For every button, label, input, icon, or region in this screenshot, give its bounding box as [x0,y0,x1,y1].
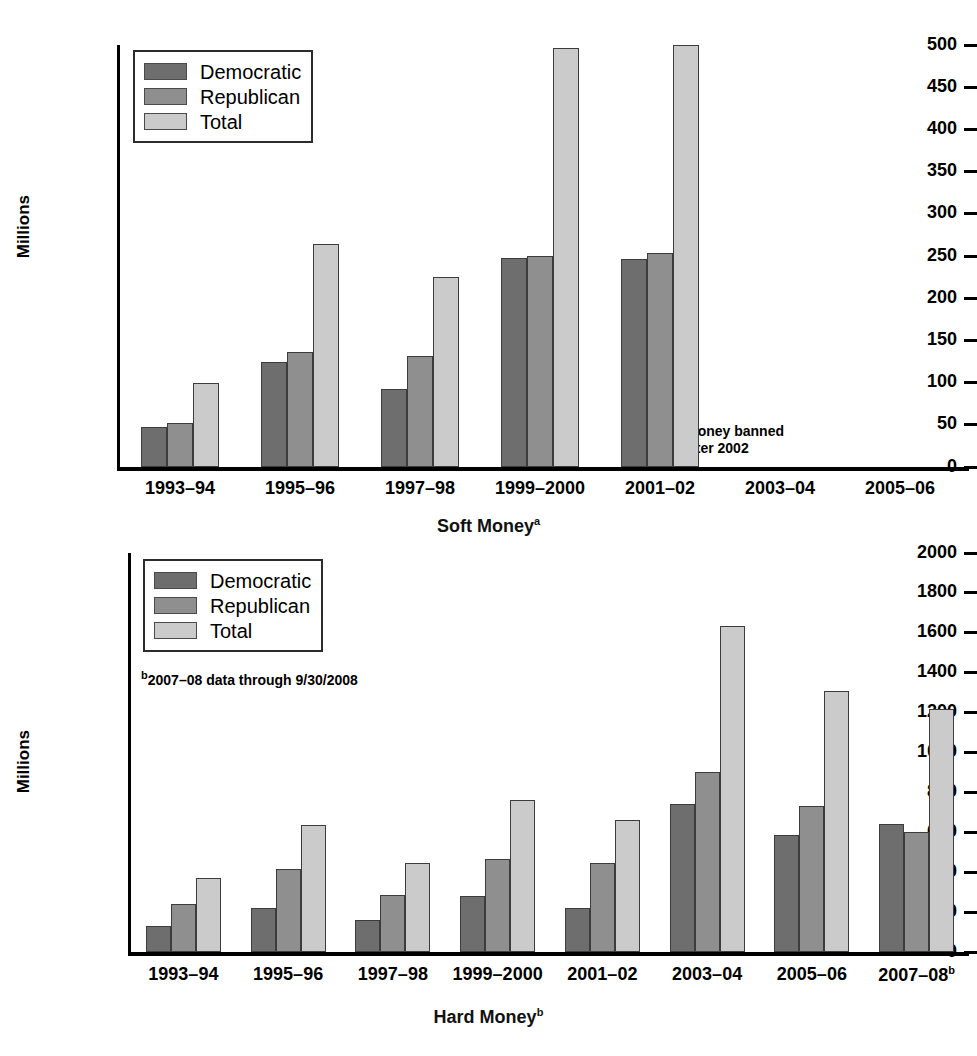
x-category-2005–06: 2005–06 [840,478,960,499]
bar-democratic-2005–06 [774,835,799,952]
bar-democratic-1993–94 [141,427,167,468]
bar-democratic-2001–02 [621,259,647,467]
legend-item-republican: Republican [144,84,299,109]
bar-republican-1993–94 [171,904,196,952]
bar-total-1997–98 [433,277,459,467]
bar-group [341,553,446,952]
x-category-2003–04: 2003–04 [720,478,840,499]
x-category-label: 2005–06 [777,964,847,984]
bar-total-1993–94 [196,878,221,952]
hard-money-chart: Millions 0200400600800100012001400160018… [0,540,977,1056]
legend-label-republican: Republican [200,87,300,107]
bar-democratic-1993–94 [146,926,171,952]
y-tick-mark-icon [964,255,977,258]
hard-note-marker: b [141,669,148,681]
y-tick-mark-icon [964,297,977,300]
bar-group [760,553,865,952]
x-category-2003–04: 2003–04 [655,964,760,985]
x-category-1993–94: 1993–94 [120,478,240,499]
bar-republican-1993–94 [167,423,193,467]
x-category-1999–2000: 1999–2000 [445,964,550,985]
bar-democratic-2003–04 [670,804,695,952]
x-category-2001–02: 2001–02 [600,478,720,499]
bar-republican-1999–2000 [527,256,553,467]
y-tick-mark-icon [964,86,977,89]
x-category-1995–96: 1995–96 [236,964,341,985]
x-category-label: 1995–96 [265,478,335,498]
y-tick-mark-icon [964,170,977,173]
x-category-label: 2007–08 [878,965,948,985]
y-tick-mark-icon [964,44,977,47]
bar-republican-2001–02 [647,253,673,467]
bar-total-2007–08 [929,709,954,952]
y-tick-mark-icon [964,339,977,342]
bar-republican-2003–04 [695,772,720,952]
bar-group [480,45,600,467]
x-category-label: 1995–96 [253,964,323,984]
bar-democratic-1997–98 [381,389,407,467]
bar-total-1995–96 [313,244,339,467]
x-category-label: 2003–04 [745,478,815,498]
soft-x-title-superscript: a [534,515,540,527]
legend-item-democratic: Democratic [144,59,299,84]
x-category-2005–06: 2005–06 [760,964,865,985]
hard-note-line1: 2007–08 data through 9/30/2008 [148,672,358,688]
x-category-1997–98: 1997–98 [360,478,480,499]
hard-money-note: b2007–08 data through 9/30/2008 [141,669,358,689]
x-category-label: 1997–98 [385,478,455,498]
x-category-superscript: b [948,964,955,976]
x-category-label: 2003–04 [672,964,742,984]
x-category-label: 2001–02 [625,478,695,498]
soft-x-axis-line [117,467,969,471]
legend-item-total: Total [144,109,299,134]
legend-label-total: Total [210,621,252,641]
bar-total-2001–02 [673,45,699,467]
bar-democratic-2007–08 [879,824,904,952]
x-category-1997–98: 1997–98 [341,964,446,985]
total-swatch-icon [144,113,187,130]
soft-x-axis-title: Soft Moneya [0,515,977,537]
x-category-label: 1999–2000 [495,478,585,498]
y-tick-mark-icon [964,212,977,215]
x-category-label: 1999–2000 [453,964,543,984]
legend-label-republican: Republican [210,596,310,616]
bar-republican-1995–96 [287,352,313,467]
hard-x-axis-title: Hard Moneyb [0,1006,977,1028]
bar-group [550,553,655,952]
x-category-1995–96: 1995–96 [240,478,360,499]
x-category-1993–94: 1993–94 [131,964,236,985]
soft-x-title-text: Soft Money [437,516,534,536]
y-tick-mark-icon [964,381,977,384]
republican-swatch-icon [144,88,187,105]
x-category-2001–02: 2001–02 [550,964,655,985]
bar-group [864,553,969,952]
democratic-swatch-icon [154,572,197,589]
republican-swatch-icon [154,597,197,614]
bar-group [445,553,550,952]
x-category-label: 1997–98 [358,964,428,984]
legend-item-total: Total [154,618,309,643]
legend-label-democratic: Democratic [200,62,301,82]
x-category-1999–2000: 1999–2000 [480,478,600,499]
bar-republican-2005–06 [799,806,824,952]
x-category-label: 2005–06 [865,478,935,498]
bar-republican-1997–98 [407,356,433,467]
bar-total-2005–06 [824,691,849,952]
bar-democratic-1995–96 [261,362,287,467]
y-tick-mark-icon [964,423,977,426]
x-category-label: 1993–94 [145,478,215,498]
bar-total-1995–96 [301,825,326,952]
bar-total-1997–98 [405,863,430,952]
soft-y-axis-label: Millions [14,195,34,258]
legend-label-total: Total [200,112,242,132]
bar-total-1993–94 [193,383,219,467]
bar-total-2003–04 [720,626,745,952]
bar-democratic-1999–2000 [501,258,527,467]
bar-republican-2001–02 [590,863,615,952]
soft-legend: Democratic Republican Total [133,50,313,143]
hard-x-title-superscript: b [537,1006,544,1018]
x-category-label: 1993–94 [148,964,218,984]
x-category-label: 2001–02 [567,964,637,984]
bar-group [655,553,760,952]
x-category-2007–08: 2007–08b [864,964,969,986]
